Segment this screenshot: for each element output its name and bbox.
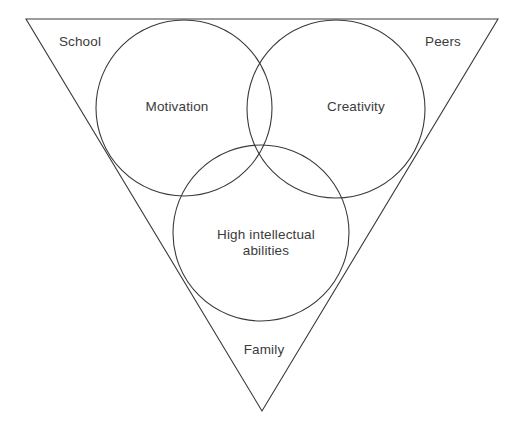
venn-triangle-graphic (0, 0, 522, 431)
triangle-corner-label-school: School (59, 34, 101, 50)
circle-label-high-intellectual-abilities: High intellectual abilities (217, 227, 315, 259)
triangle-corner-label-family: Family (244, 342, 285, 358)
circle-label-motivation: Motivation (145, 99, 208, 115)
triangle-corner-label-peers: Peers (425, 34, 461, 50)
circle-label-creativity: Creativity (327, 99, 385, 115)
diagram-canvas: School Peers Family Motivation Creativit… (0, 0, 522, 431)
